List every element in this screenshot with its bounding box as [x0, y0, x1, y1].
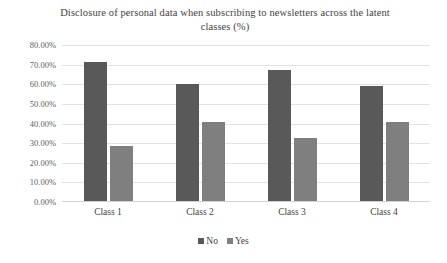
legend-item-yes[interactable]: Yes [227, 236, 249, 246]
bar-no-class-3 [268, 70, 291, 201]
bar-yes-class-4 [386, 122, 409, 201]
bar-group [338, 45, 430, 201]
bar-group [154, 45, 246, 201]
axis-baseline [62, 201, 430, 202]
chart-legend: NoYes [0, 236, 447, 246]
legend-swatch-icon [198, 238, 204, 244]
bar-group [246, 45, 338, 201]
x-axis: Class 1Class 2Class 3Class 4 [62, 206, 430, 220]
y-axis-tick-label: 20.00% [0, 158, 56, 167]
legend-swatch-icon [227, 238, 233, 244]
y-axis-tick-label: 50.00% [0, 99, 56, 108]
y-axis-tick-label: 10.00% [0, 178, 56, 187]
bar-group [62, 45, 154, 201]
x-axis-tick-label: Class 2 [154, 206, 246, 218]
y-axis-tick-label: 0.00% [0, 198, 56, 207]
bar-yes-class-2 [202, 122, 225, 201]
bar-no-class-2 [176, 84, 199, 201]
bar-no-class-4 [360, 86, 383, 201]
y-axis-tick-label: 60.00% [0, 80, 56, 89]
bar-no-class-1 [84, 62, 107, 201]
x-axis-tick-label: Class 4 [338, 206, 430, 218]
bar-yes-class-1 [110, 146, 133, 201]
chart-title: Disclosure of personal data when subscri… [50, 6, 400, 34]
bar-chart: Disclosure of personal data when subscri… [0, 0, 447, 263]
y-axis: 80.00%70.00%60.00%50.00%40.00%30.00%20.0… [0, 45, 56, 202]
bar-yes-class-3 [294, 138, 317, 201]
y-axis-tick-label: 80.00% [0, 41, 56, 50]
y-axis-tick-label: 30.00% [0, 139, 56, 148]
x-axis-tick-label: Class 3 [246, 206, 338, 218]
plot-area [62, 45, 430, 202]
y-axis-tick-label: 40.00% [0, 119, 56, 128]
x-axis-tick-label: Class 1 [62, 206, 154, 218]
legend-label: No [206, 236, 218, 246]
legend-item-no[interactable]: No [198, 236, 218, 246]
legend-label: Yes [235, 236, 249, 246]
y-axis-tick-label: 70.00% [0, 60, 56, 69]
